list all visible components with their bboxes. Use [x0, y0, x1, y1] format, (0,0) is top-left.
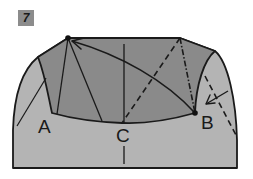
folding-diagram: A B C [0, 0, 253, 179]
top-left-point-dot [65, 35, 71, 41]
label-c: C [116, 125, 130, 146]
point-b-dot [192, 110, 198, 116]
label-a: A [38, 116, 51, 137]
label-b: B [201, 112, 214, 133]
